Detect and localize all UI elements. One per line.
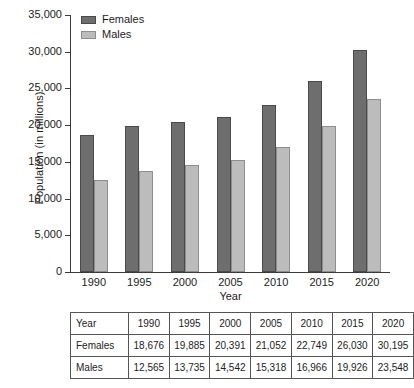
table-cell: 23,548	[373, 357, 414, 379]
bar-females-2020	[353, 50, 367, 272]
y-tick-label: 30,000	[2, 46, 62, 57]
table-cell: 1995	[169, 313, 210, 335]
bar-females-2005	[217, 117, 231, 272]
legend-swatch-females	[81, 16, 96, 24]
table-row-header: Females	[71, 335, 129, 357]
table-cell: 14,542	[210, 357, 251, 379]
table-cell: 21,052	[251, 335, 292, 357]
bar-males-1995	[139, 171, 153, 272]
legend-swatch-males	[81, 31, 96, 39]
legend-label-males: Males	[102, 29, 131, 40]
y-tick-label: 15,000	[2, 156, 62, 167]
x-axis-line	[70, 272, 390, 273]
y-tick-label: 5,000	[2, 229, 62, 240]
table-cell: 15,318	[251, 357, 292, 379]
table-cell: 2000	[210, 313, 251, 335]
table-cell: 26,030	[332, 335, 373, 357]
y-tick-label: 20,000	[2, 119, 62, 130]
table-cell: 18,676	[129, 335, 170, 357]
y-tick-label: 35,000	[2, 9, 62, 20]
chart-legend: FemalesMales	[81, 13, 144, 43]
figure: Population (in millions) 05,00010,00015,…	[0, 0, 414, 388]
table-row-header: Year	[71, 313, 129, 335]
bar-females-1995	[125, 126, 139, 272]
table-row: Females18,67619,88520,39121,05222,74926,…	[71, 335, 414, 357]
bar-chart: Population (in millions) 05,00010,00015,…	[0, 0, 414, 306]
legend-item-males: Males	[81, 28, 144, 41]
table-cell: 2015	[332, 313, 373, 335]
bar-females-1990	[80, 135, 94, 272]
bar-females-2000	[171, 122, 185, 272]
legend-item-females: Females	[81, 13, 144, 26]
table-cell: 19,885	[169, 335, 210, 357]
bar-males-2000	[185, 165, 199, 272]
bar-males-2015	[322, 126, 336, 272]
table-cell: 13,735	[169, 357, 210, 379]
plot-area	[71, 15, 390, 272]
table-cell: 12,565	[129, 357, 170, 379]
table-cell: 30,195	[373, 335, 414, 357]
legend-label-females: Females	[102, 14, 144, 25]
table-cell: 2020	[373, 313, 414, 335]
bar-females-2010	[262, 105, 276, 272]
table-cell: 1990	[129, 313, 170, 335]
table-cell: 16,966	[291, 357, 332, 379]
bar-males-2010	[276, 147, 290, 272]
table-row: Males12,56513,73514,54215,31816,96619,92…	[71, 357, 414, 379]
bar-females-2015	[308, 81, 322, 272]
bar-males-1990	[94, 180, 108, 272]
data-table: Year1990199520002005201020152020Females1…	[70, 312, 414, 379]
table-row-header: Males	[71, 357, 129, 379]
y-tick-mark	[65, 272, 71, 273]
table-cell: 20,391	[210, 335, 251, 357]
y-axis-title: Population (in millions)	[33, 48, 45, 248]
data-table-container: Year1990199520002005201020152020Females1…	[70, 312, 414, 379]
table-cell: 2005	[251, 313, 292, 335]
table-cell: 19,926	[332, 357, 373, 379]
y-tick-label: 0	[2, 266, 62, 277]
x-axis-title: Year	[71, 290, 390, 302]
y-tick-label: 25,000	[2, 82, 62, 93]
table-row: Year1990199520002005201020152020	[71, 313, 414, 335]
bar-males-2005	[231, 160, 245, 272]
table-cell: 2010	[291, 313, 332, 335]
x-tick-label-2020: 2020	[339, 276, 395, 288]
y-tick-label: 10,000	[2, 193, 62, 204]
bar-males-2020	[367, 99, 381, 272]
table-cell: 22,749	[291, 335, 332, 357]
